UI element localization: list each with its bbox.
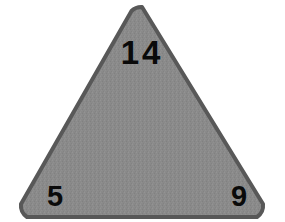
figure-canvas: 14 5 9 [0, 0, 285, 222]
triangle-bottom-right-number: 9 [222, 182, 256, 211]
triangle-apex-number: 14 [104, 36, 180, 69]
triangle-bottom-left-number: 5 [38, 182, 72, 211]
